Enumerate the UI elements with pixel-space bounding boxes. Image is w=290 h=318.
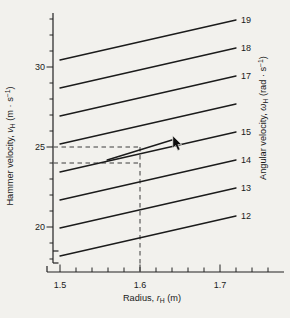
hammer-velocity-vs-radius-chart: 2025301.51.61.719181715141312Radius, rH … bbox=[0, 0, 290, 318]
y-tick-label: 30 bbox=[35, 62, 45, 72]
y-tick-label: 25 bbox=[35, 142, 45, 152]
x-tick-label: 1.7 bbox=[214, 280, 227, 290]
y-axis-title: Hammer velocity, vH (m · s−1) bbox=[4, 86, 17, 205]
mouse-cursor-icon bbox=[173, 136, 182, 151]
x-tick-label: 1.5 bbox=[54, 280, 67, 290]
omega-line-label-13: 13 bbox=[241, 183, 251, 193]
omega-line-label-12: 12 bbox=[241, 211, 251, 221]
x-axis-title: Radius, rH (m) bbox=[123, 293, 181, 304]
y-tick-label: 20 bbox=[35, 222, 45, 232]
x-tick-label: 1.6 bbox=[134, 280, 147, 290]
y2-axis-title: Angular velocity, ωH (rad · s−1) bbox=[257, 56, 270, 180]
omega-line-label-17: 17 bbox=[241, 71, 251, 81]
omega-line-label-15: 15 bbox=[241, 127, 251, 137]
omega-line-label-19: 19 bbox=[241, 15, 251, 25]
omega-line-label-18: 18 bbox=[241, 43, 251, 53]
omega-line-label-14: 14 bbox=[241, 155, 251, 165]
chart-canvas: 2025301.51.61.719181715141312Radius, rH … bbox=[0, 0, 290, 318]
